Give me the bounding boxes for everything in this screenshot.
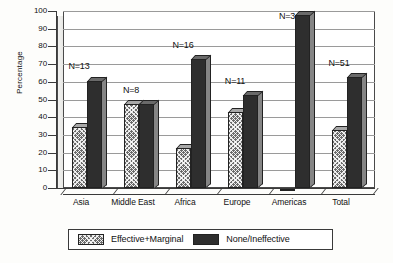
y-axis-tick-label: 80 [7,42,47,50]
bar-front-face [332,130,347,188]
y-axis-tick-label: 10 [7,166,47,174]
x-axis-line-front [63,194,375,195]
x-axis-label-americas: Americas [263,197,315,207]
bar-none-ineffective [243,91,258,188]
bar-none-ineffective [295,11,310,188]
bar-effective-marginal [228,108,243,188]
legend-item-effective-marginal: Effective+Marginal [78,234,183,245]
legend-label-none-ineffective: None/Ineffective [226,235,289,244]
bar-side-face [154,99,159,188]
plot-area: N=13N=8N=16N=11N=3N=51 [57,11,375,188]
bar-front-face [124,104,139,189]
y-axis-ticks: 0102030405060708090100 [0,11,57,188]
y-axis-tick-label: 70 [7,60,47,68]
y-axis-tick-label: 50 [7,96,47,104]
bar-front-face [87,81,102,189]
y-axis-tick-label: 20 [7,149,47,157]
legend-item-none-ineffective: None/Ineffective [193,234,289,245]
bar-side-face [258,90,263,188]
bar-effective-marginal [72,123,87,188]
y-axis-tick-label: 60 [7,78,47,86]
legend-label-effective-marginal: Effective+Marginal [111,235,183,244]
bar-effective-marginal [124,100,139,189]
bar-side-face [362,73,367,188]
bar-annotation-n-count: N=13 [53,62,105,71]
y-axis-tick-label: 100 [7,7,47,15]
bar-annotation-n-count: N=8 [105,86,157,95]
bar-chart: Percentage 0102030405060708090100 N=13N=… [0,0,393,263]
x-axis-label-africa: Africa [159,197,211,207]
bar-front-face [228,112,243,188]
bar-front-face [280,189,295,191]
x-axis-label-middle-east: Middle East [107,197,159,207]
bar-front-face [243,95,258,188]
x-axis-label-total: Total [315,197,367,207]
bar-annotation-n-count: N=11 [209,77,261,86]
legend-swatch-solid-icon [193,234,219,245]
bar-none-ineffective [347,73,362,188]
bar-effective-marginal [332,126,347,188]
bar-front-face [295,15,310,188]
bar-front-face [347,77,362,188]
bar-series-container: N=13N=8N=16N=11N=3N=51 [63,11,375,188]
bar-none-ineffective [139,100,154,189]
bar-effective-marginal [176,144,191,188]
x-axis-label-europe: Europe [211,197,263,207]
y-axis-tick-label: 90 [7,25,47,33]
bar-annotation-n-count: N=16 [157,41,209,50]
bar-side-face [206,55,211,188]
bar-front-face [72,127,87,188]
bar-annotation-n-count: N=3 [261,12,313,21]
x-axis-labels: AsiaMiddle EastAfricaEuropeAmericasTotal [57,197,375,209]
bar-none-ineffective [191,55,206,188]
bar-front-face [191,59,206,188]
x-axis-label-asia: Asia [55,197,107,207]
bar-front-face [176,148,191,188]
bar-front-face [139,104,154,189]
x-axis-line-back [57,188,375,189]
y-axis-tick-label: 30 [7,131,47,139]
legend-swatch-hatched-icon [78,234,104,245]
legend: Effective+Marginal None/Ineffective [68,229,333,250]
y-axis-tick-label: 0 [7,184,47,192]
y-axis-tick-label: 40 [7,113,47,121]
bar-side-face [310,11,315,188]
bar-none-ineffective [87,77,102,189]
x-axis-tick-mark [372,188,378,195]
bar-effective-marginal [280,185,295,188]
bar-annotation-n-count: N=51 [313,59,365,68]
